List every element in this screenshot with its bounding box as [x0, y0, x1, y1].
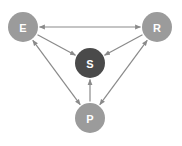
edge-e-s-arrow-icon: [38, 35, 76, 55]
node-label: R: [153, 22, 161, 34]
relationship-diagram: ERSP: [0, 0, 182, 146]
edge-r-s-arrow-icon: [105, 35, 143, 55]
node-e: E: [8, 12, 38, 42]
node-p: P: [75, 103, 105, 133]
node-label: E: [19, 22, 26, 34]
node-r: R: [142, 12, 172, 42]
node-label: P: [86, 113, 93, 125]
node-s: S: [75, 48, 105, 78]
node-label: S: [86, 58, 93, 70]
nodes-layer: ERSP: [8, 12, 172, 133]
edge-r-p-arrow-icon: [100, 40, 147, 104]
edge-e-p-arrow-icon: [33, 40, 80, 104]
